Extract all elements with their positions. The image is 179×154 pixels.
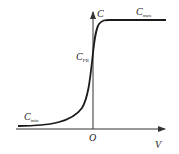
c-max-label: Cmax <box>136 6 152 18</box>
cv-diagram: C V O Cmax CFB Cmin <box>0 0 179 154</box>
cv-curve <box>18 20 166 126</box>
c-fb-label: CFB <box>76 51 89 63</box>
x-axis-label: V <box>155 139 163 150</box>
y-axis-label: C <box>97 8 104 19</box>
origin-label: O <box>89 132 96 143</box>
c-min-label: Cmin <box>24 111 39 123</box>
